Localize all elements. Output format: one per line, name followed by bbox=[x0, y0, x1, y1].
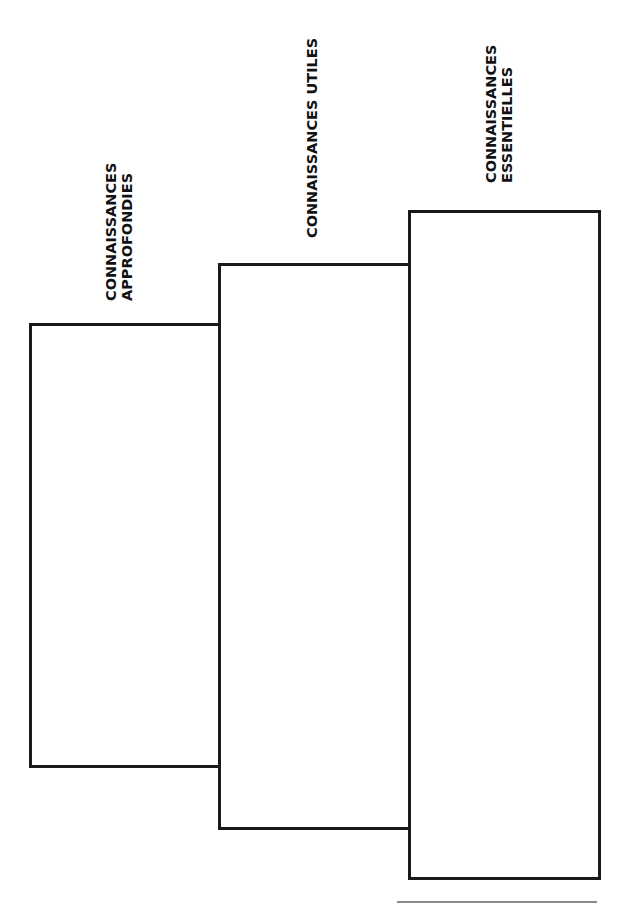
step-label-line: ESSENTIELLES bbox=[499, 45, 515, 183]
step-label-line: CONNAISSANCES bbox=[103, 163, 119, 301]
footer-rule bbox=[397, 901, 597, 903]
step-label-line: CONNAISSANCES UTILES bbox=[304, 38, 320, 238]
step-label-utiles: CONNAISSANCES UTILES bbox=[304, 38, 320, 238]
step-label-line: APPROFONDIES bbox=[119, 163, 135, 301]
step-label-essentielles: CONNAISSANCES ESSENTIELLES bbox=[483, 45, 515, 183]
step-label-line: CONNAISSANCES bbox=[483, 45, 499, 183]
step-box-essentielles bbox=[408, 210, 601, 880]
step-label-approfondies: CONNAISSANCES APPROFONDIES bbox=[103, 163, 135, 301]
step-box-approfondies bbox=[29, 323, 221, 768]
step-box-utiles bbox=[218, 263, 411, 830]
